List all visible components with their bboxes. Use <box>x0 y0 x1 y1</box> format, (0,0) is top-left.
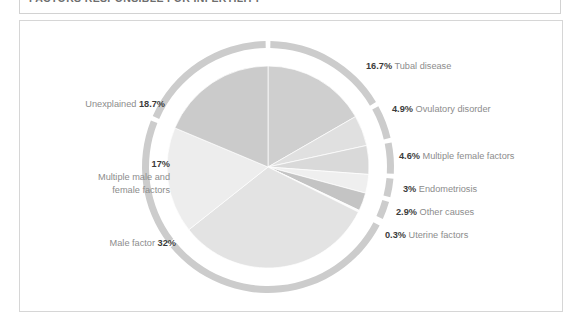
name-endometriosis: Endometriosis <box>419 184 477 194</box>
name-other-causes: Other causes <box>420 207 475 217</box>
value-other-causes: 2.9% <box>396 207 417 217</box>
name-unexplained: Unexplained <box>85 99 136 109</box>
title-panel: FACTORS RESPONSIBLE FOR INFERTILITY <box>19 0 561 14</box>
value-endometriosis: 3% <box>403 184 416 194</box>
label-tubal-disease: 16.7% Tubal disease <box>366 60 451 73</box>
value-unexplained: 18.7% <box>139 99 165 109</box>
label-unexplained: Unexplained 18.7% <box>0 98 165 111</box>
pie-slices <box>167 66 369 268</box>
value-ovulatory-disorder: 4.9% <box>392 104 413 114</box>
name-multiple-female-factors: Multiple female factors <box>423 151 515 161</box>
label-endometriosis: 3% Endometriosis <box>403 183 477 196</box>
value-uterine-factors: 0.3% <box>385 230 406 240</box>
value-multiple-male-female: 17% <box>152 159 170 169</box>
name-multiple-male-female-line2: female factors <box>0 184 170 197</box>
name-tubal-disease: Tubal disease <box>394 61 451 71</box>
value-tubal-disease: 16.7% <box>366 61 392 71</box>
label-other-causes: 2.9% Other causes <box>396 206 474 219</box>
value-multiple-female-factors: 4.6% <box>399 151 420 161</box>
label-ovulatory-disorder: 4.9% Ovulatory disorder <box>392 103 491 116</box>
label-male-factor: Male factor 32% <box>0 237 176 250</box>
name-uterine-factors: Uterine factors <box>409 230 469 240</box>
value-male-factor: 32% <box>158 238 176 248</box>
name-multiple-male-female-line1: Multiple male and <box>0 171 170 184</box>
label-uterine-factors: 0.3% Uterine factors <box>385 229 468 242</box>
name-ovulatory-disorder: Ovulatory disorder <box>416 104 491 114</box>
name-male-factor: Male factor <box>110 238 155 248</box>
label-multiple-male-female-factors: 17% Multiple male and female factors <box>0 158 170 196</box>
page-title: FACTORS RESPONSIBLE FOR INFERTILITY <box>29 0 261 4</box>
label-multiple-female-factors: 4.6% Multiple female factors <box>399 150 514 163</box>
